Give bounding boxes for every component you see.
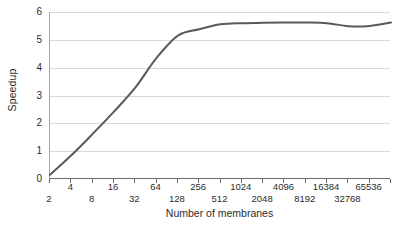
x-tick-label: 16384 <box>313 182 339 192</box>
y-tick-label: 4 <box>36 63 42 73</box>
y-tick-label: 5 <box>36 35 42 45</box>
series-line-path <box>50 23 391 175</box>
x-tick-label: 1024 <box>230 182 251 192</box>
y-tick-label: 3 <box>36 91 42 101</box>
x-tick-label: 2048 <box>252 194 273 204</box>
x-axis-title: Number of membranes <box>49 207 390 219</box>
x-tick-label: 8192 <box>294 194 315 204</box>
y-axis-title-label: Speedup <box>6 68 18 111</box>
x-axis-tick-labels: 2832128512204881923276841664256102440961… <box>0 182 400 208</box>
x-tick-label: 16 <box>108 182 119 192</box>
x-tick-label: 256 <box>190 182 206 192</box>
x-tick-label: 64 <box>150 182 161 192</box>
y-axis-title: Speedup <box>2 0 22 179</box>
x-tick-label: 65536 <box>355 182 381 192</box>
speedup-line-chart: Speedup 0123456 283212851220488192327684… <box>0 0 400 229</box>
x-tick-label: 8 <box>89 194 94 204</box>
x-tick-label: 2 <box>46 194 51 204</box>
x-tick-label: 4 <box>68 182 73 192</box>
x-tick-label: 128 <box>169 194 185 204</box>
x-tick-label: 512 <box>212 194 228 204</box>
x-tick-label: 32 <box>129 194 140 204</box>
x-tick-label: 32768 <box>334 194 360 204</box>
plot-area <box>49 12 390 179</box>
x-tick-label: 4096 <box>273 182 294 192</box>
series-speedup <box>50 12 391 179</box>
y-tick-label: 2 <box>36 118 42 128</box>
y-tick-label: 6 <box>36 7 42 17</box>
y-axis-tick-labels: 0123456 <box>24 0 45 191</box>
y-tick-label: 1 <box>36 146 42 156</box>
